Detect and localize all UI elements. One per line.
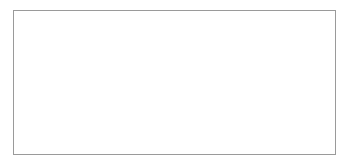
normal-curve-chart bbox=[0, 0, 347, 168]
